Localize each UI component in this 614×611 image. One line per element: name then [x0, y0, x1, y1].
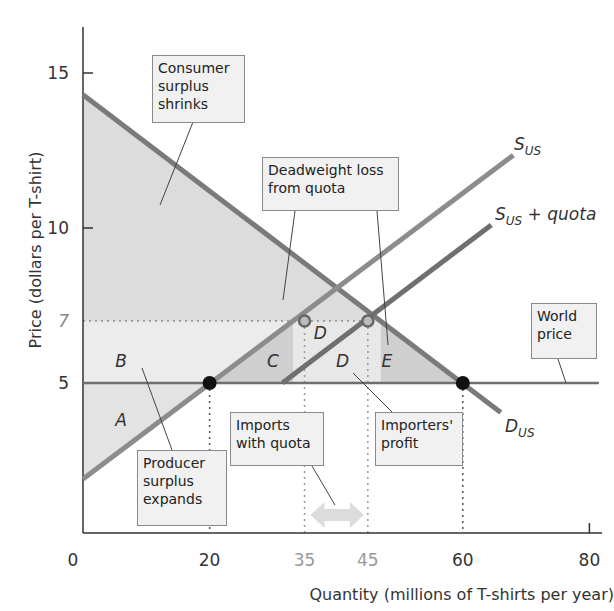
- area-label-a: A: [114, 410, 127, 430]
- x-axis-title: Quantity (millions of T-shirts per year): [309, 585, 614, 604]
- area-label-c: C: [267, 351, 279, 371]
- domestic-consumption-world-point: [456, 376, 470, 390]
- chart-container: 57101502035456080Price (dollars per T-sh…: [0, 0, 614, 611]
- supply-label: SUS: [514, 134, 542, 158]
- imports-leader: [312, 466, 335, 505]
- x-tick-label: 20: [199, 550, 221, 570]
- note-line: surplus: [143, 472, 221, 490]
- note-line: Deadweight loss: [268, 161, 393, 179]
- note-line: surplus: [158, 77, 239, 95]
- imports-range-arrow: [311, 502, 364, 528]
- note-line: Consumer: [158, 59, 239, 77]
- note-line: from quota: [268, 179, 393, 197]
- world-price-note: World price: [531, 303, 597, 359]
- producer-surplus-note: Producer surplus expands: [137, 450, 227, 526]
- area-label-e: E: [381, 351, 392, 371]
- y-tick-label: 15: [47, 63, 69, 83]
- note-line: Producer: [143, 454, 221, 472]
- world-price-leader: [558, 359, 566, 383]
- x-tick-label: 45: [357, 550, 379, 570]
- domestic-production-world-point: [203, 376, 217, 390]
- domestic-production-quota-point: [299, 316, 310, 327]
- x-tick-label: 0: [68, 550, 79, 570]
- x-tick-label: 35: [294, 550, 316, 570]
- note-line: Importers': [381, 416, 457, 434]
- x-tick-label: 60: [452, 550, 474, 570]
- area-label-d-upper: D: [314, 323, 327, 343]
- x-tick-label: 80: [579, 550, 601, 570]
- note-line: with quota: [236, 434, 318, 452]
- importers-profit-note: Importers' profit: [375, 412, 463, 466]
- y-tick-label: 7: [58, 311, 69, 331]
- note-line: price: [537, 325, 591, 343]
- note-line: Imports: [236, 416, 318, 434]
- imports-note: Imports with quota: [230, 412, 324, 466]
- domestic-consumption-quota-point: [362, 316, 373, 327]
- area-label-b: B: [115, 351, 127, 371]
- demand-label: DUS: [505, 416, 535, 440]
- y-axis-title: Price (dollars per T-shirt): [26, 152, 45, 349]
- deadweight-loss-note: Deadweight loss from quota: [262, 157, 399, 211]
- note-line: expands: [143, 490, 221, 508]
- chart-svg: 57101502035456080Price (dollars per T-sh…: [0, 0, 614, 611]
- area-label-d-lower: D: [336, 351, 349, 371]
- consumer-surplus-note: Consumer surplus shrinks: [152, 55, 245, 123]
- y-tick-label: 5: [58, 373, 69, 393]
- y-tick-label: 10: [47, 218, 69, 238]
- note-line: shrinks: [158, 95, 239, 113]
- supply-plus-quota-label: SUS + quota: [495, 204, 596, 228]
- note-line: profit: [381, 434, 457, 452]
- note-line: World: [537, 307, 591, 325]
